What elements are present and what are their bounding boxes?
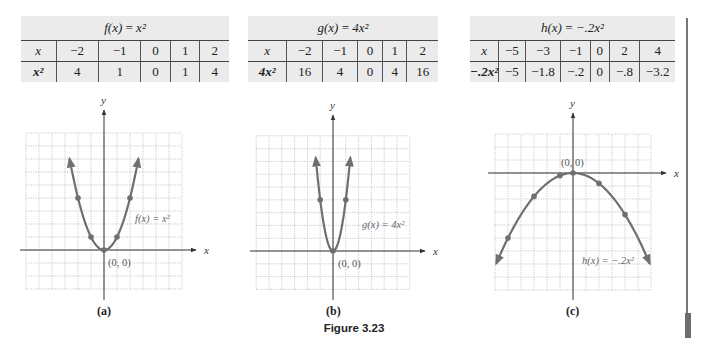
curve-label: g(x) = 4x² xyxy=(362,219,405,231)
data-point xyxy=(330,248,336,254)
svg-text:y: y xyxy=(329,99,335,111)
data-point xyxy=(88,234,94,240)
data-point xyxy=(531,194,537,200)
svg-text:x: x xyxy=(203,244,209,256)
graph-a: xyf(x) = x²(0, 0) xyxy=(20,94,209,300)
sublabel-a: (a) xyxy=(97,304,111,319)
svg-text:x: x xyxy=(432,245,438,257)
data-point xyxy=(622,212,628,218)
data-point xyxy=(505,235,511,241)
origin-label: (0, 0) xyxy=(108,257,131,269)
data-point xyxy=(557,173,563,179)
svg-text:x: x xyxy=(673,167,679,179)
data-point xyxy=(127,195,133,201)
graph-c: xyh(x) = −.2x²(0, 0) xyxy=(488,97,679,300)
margin-rule xyxy=(686,18,688,314)
data-point xyxy=(570,170,576,176)
origin-label: (0, 0) xyxy=(338,258,361,270)
margin-marker xyxy=(685,313,691,338)
curve-label: h(x) = −.2x² xyxy=(582,255,635,267)
sublabel-c: (c) xyxy=(566,304,579,319)
svg-text:y: y xyxy=(100,94,106,106)
data-point xyxy=(75,195,81,201)
sublabel-b: (b) xyxy=(326,304,341,319)
data-point xyxy=(317,197,323,203)
origin-label: (0, 0) xyxy=(561,157,584,169)
data-point xyxy=(343,197,349,203)
figure-caption: Figure 3.23 xyxy=(0,322,708,334)
svg-text:y: y xyxy=(569,97,575,109)
data-point xyxy=(114,234,120,240)
data-point xyxy=(101,247,107,253)
graph-b: xyg(x) = 4x²(0, 0) xyxy=(250,99,438,300)
data-point xyxy=(596,181,602,187)
curve-label: f(x) = x² xyxy=(135,213,171,225)
